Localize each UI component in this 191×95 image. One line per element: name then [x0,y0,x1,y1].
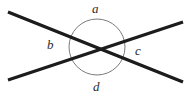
angle-label-c: c [135,44,141,57]
angle-diagram-figure: a b c d [0,0,191,95]
angle-label-b: b [47,38,54,51]
angle-label-d: d [93,80,100,93]
angle-label-a: a [92,2,99,15]
